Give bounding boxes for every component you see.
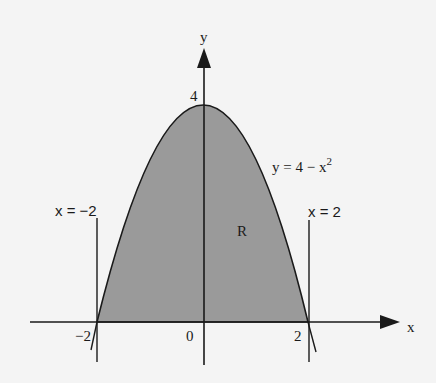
tick-x-neg2: −2	[75, 328, 91, 344]
curve-label-main: y = 4 − x	[272, 159, 327, 175]
x-axis-label: x	[407, 319, 415, 335]
tick-x-2: 2	[294, 328, 302, 344]
region-diagram: y x 4 −2 0 2 y = 4 − x2 x = −2 x = 2 R	[0, 0, 436, 383]
curve-label-exponent: 2	[326, 155, 332, 167]
tick-x-0: 0	[186, 328, 194, 344]
region-r-fill	[97, 105, 308, 322]
y-axis-arrow-icon	[197, 48, 211, 68]
line-x-neg2-label: x = −2	[55, 202, 97, 219]
y-axis-label: y	[200, 29, 208, 45]
x-axis-arrow-icon	[380, 315, 400, 329]
line-x-2-label: x = 2	[308, 203, 341, 220]
curve-extension-left	[91, 322, 97, 350]
curve-label: y = 4 − x2	[272, 155, 332, 175]
region-label: R	[237, 223, 247, 239]
tick-y-4: 4	[190, 88, 198, 104]
